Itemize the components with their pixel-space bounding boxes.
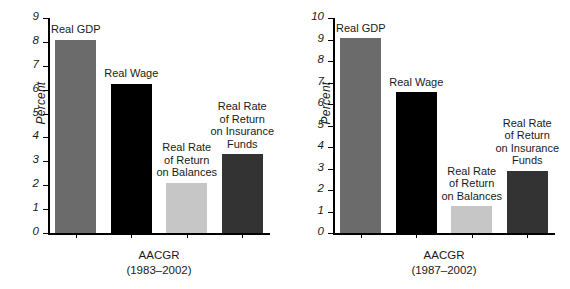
y-tick-label-6: 6 [13,82,39,94]
bar: Real GDP [340,38,381,233]
y-tick-label-9: 9 [13,10,39,22]
plot-area-right: 012345678910 Real GDPReal WageReal Rateo… [333,18,555,233]
y-tick-1: 1 [328,212,333,213]
y-tick-2: 2 [43,185,48,186]
y-tick-4: 4 [43,137,48,138]
y-tick-6: 6 [328,104,333,105]
y-tick-label-8: 8 [298,53,324,65]
y-tick-5: 5 [43,114,48,115]
y-tick-5: 5 [328,126,333,127]
x-axis-caption-line1-right: AACGR [424,249,465,261]
y-tick-6: 6 [43,90,48,91]
y-tick-10: 10 [328,18,333,19]
y-tick-label-5: 5 [13,106,39,118]
x-tick [527,233,528,238]
x-tick [472,233,473,238]
y-tick-2: 2 [328,190,333,191]
y-tick-label-5: 5 [298,118,324,130]
bar-label: Real GDP [336,22,386,35]
x-tick [76,233,77,238]
y-tick-label-8: 8 [13,34,39,46]
bar: Real Rateof Returnon Balances [166,183,207,233]
y-tick-label-0: 0 [298,225,324,237]
bar: Real Rateof Returnon InsuranceFunds [222,154,263,233]
two-panel-bar-chart-figure: Percent 0123456789 Real GDPReal WageReal… [0,0,570,289]
y-tick-0: 0 [43,233,48,234]
y-tick-label-7: 7 [298,75,324,87]
x-tick [361,233,362,238]
y-tick-9: 9 [328,40,333,41]
chart-panel-left: Percent 0123456789 Real GDPReal WageReal… [0,0,285,289]
x-tick [242,233,243,238]
x-axis-caption-line1-left: AACGR [139,249,180,261]
bar-label: Real Rateof Returnon InsuranceFunds [210,100,274,150]
bar-label: Real Wage [104,67,158,80]
y-tick-label-0: 0 [13,225,39,237]
y-tick-label-2: 2 [298,182,324,194]
x-axis-caption-line2-right: (1987–2002) [333,263,555,278]
bar-label: Real Rateof Returnon Balances [441,165,502,203]
y-axis-title-left: Percent [34,68,48,138]
bar: Real Wage [111,84,152,233]
y-tick-label-6: 6 [298,96,324,108]
y-tick-8: 8 [328,61,333,62]
y-axis-line-left [48,18,50,233]
bar: Real Rateof Returnon InsuranceFunds [507,171,548,233]
bar-label: Real Rateof Returnon InsuranceFunds [495,117,559,167]
y-tick-label-1: 1 [13,201,39,213]
y-tick-3: 3 [43,161,48,162]
bar-label: Real GDP [51,23,101,36]
bar: Real GDP [55,40,96,234]
bar: Real Rateof Returnon Balances [451,206,492,233]
bar-label: Real Rateof Returnon Balances [156,141,217,179]
y-tick-7: 7 [43,66,48,67]
y-tick-7: 7 [328,83,333,84]
plot-area-left: 0123456789 Real GDPReal WageReal Rateof … [48,18,270,233]
x-axis-line-left [48,233,270,235]
y-tick-label-3: 3 [298,161,324,173]
y-tick-3: 3 [328,169,333,170]
x-axis-line-right [333,233,555,235]
x-axis-caption-right: AACGR (1987–2002) [333,248,555,278]
y-tick-label-1: 1 [298,204,324,216]
x-axis-caption-left: AACGR (1983–2002) [48,248,270,278]
x-tick [416,233,417,238]
bar-label: Real Wage [389,76,443,89]
y-tick-label-9: 9 [298,32,324,44]
x-tick [187,233,188,238]
x-axis-caption-line2-left: (1983–2002) [48,263,270,278]
y-tick-label-2: 2 [13,177,39,189]
y-tick-0: 0 [328,233,333,234]
y-tick-label-4: 4 [298,139,324,151]
bar: Real Wage [396,92,437,233]
x-tick [131,233,132,238]
y-tick-9: 9 [43,18,48,19]
y-tick-label-10: 10 [298,10,324,22]
y-tick-label-4: 4 [13,129,39,141]
y-tick-label-3: 3 [13,153,39,165]
y-tick-1: 1 [43,209,48,210]
y-tick-8: 8 [43,42,48,43]
y-axis-line-right [333,18,335,233]
y-tick-4: 4 [328,147,333,148]
chart-panel-right: Percent 012345678910 Real GDPReal WageRe… [285,0,570,289]
y-tick-label-7: 7 [13,58,39,70]
